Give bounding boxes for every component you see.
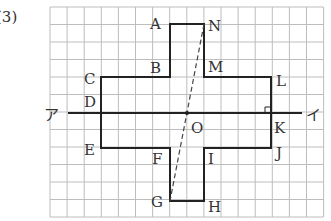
label-h: H [208,198,221,216]
label-l: L [276,72,286,90]
label-o: O [191,119,203,137]
label-a-axis: ア [44,106,59,124]
label-i-axis: イ [306,106,321,124]
label-k: K [274,119,286,137]
label-m: M [208,58,223,76]
label-a: A [149,15,161,33]
label-e: E [84,141,95,159]
center-point [185,111,189,115]
label-j: J [274,144,282,162]
label-n: N [208,17,221,35]
label-b: B [150,59,161,77]
label-c: C [84,70,95,88]
problem-number: (3) [0,8,17,26]
label-f: F [152,150,162,168]
label-g: G [151,193,163,211]
figure: (3) A N B M C L D ア イ O K E J F I G H [0,0,331,221]
label-d: D [84,93,96,111]
label-i: I [208,150,214,168]
